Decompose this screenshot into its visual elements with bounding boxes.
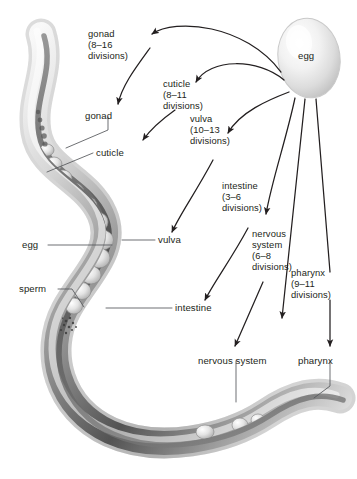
anatomy-label-sperm: sperm xyxy=(19,283,46,294)
figure-canvas: gonad cuticle egg sperm vulva intestine … xyxy=(0,0,357,479)
annotation-intestine-divisions: divisions) xyxy=(222,202,262,213)
annotation-cuticle-tissue: cuticle xyxy=(163,78,190,89)
annotation-gonad-divisions: divisions) xyxy=(88,50,128,61)
leader-gonad xyxy=(66,117,108,148)
annotation-pharynx-divisions: divisions) xyxy=(291,289,331,300)
annotation-nervous-system-tissue2: system xyxy=(252,239,282,250)
annotation-gonad-range: (8–16 xyxy=(88,39,112,50)
anatomy-label-nervous-system: nervous system xyxy=(198,355,267,366)
annotation-vulva-divisions: divisions) xyxy=(190,135,230,146)
leader-cuticle xyxy=(47,153,93,172)
annotation-nervous-system-tissue: nervous xyxy=(252,228,286,239)
anatomy-label-pharynx: pharynx xyxy=(298,355,333,366)
anatomy-label-gonad: gonad xyxy=(85,110,112,121)
anatomy-label-intestine: intestine xyxy=(175,302,212,313)
annotation-intestine-tissue: intestine xyxy=(222,180,258,191)
annotation-intestine-range: (3–6 xyxy=(222,191,241,202)
annotation-vulva-tissue: vulva xyxy=(190,113,212,124)
egg-label: egg xyxy=(298,50,314,61)
anatomy-label-cuticle: cuticle xyxy=(96,147,124,158)
annotation-nervous-system-divisions: divisions) xyxy=(252,261,292,272)
annotation-gonad-tissue: gonad xyxy=(88,28,115,39)
leader-pharynx xyxy=(314,361,330,398)
leader-sperm xyxy=(58,289,84,307)
annotation-pharynx-range: (9–11 xyxy=(291,278,315,289)
anatomy-label-vulva: vulva xyxy=(158,234,181,245)
annotation-pharynx-tissue: pharynx xyxy=(291,267,325,278)
annotation-vulva-range: (10–13 xyxy=(190,124,220,135)
annotation-nervous-system-range: (6–8 xyxy=(252,250,271,261)
annotation-cuticle-range: (8–11 xyxy=(163,89,187,100)
anatomy-label-egg: egg xyxy=(22,239,38,250)
annotation-cuticle-divisions: divisions) xyxy=(163,100,203,111)
